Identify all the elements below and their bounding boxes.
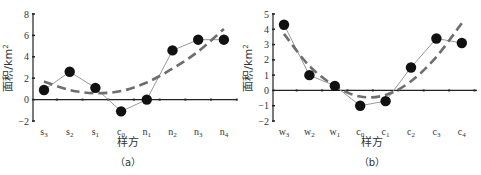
data-point-marker — [380, 96, 390, 106]
data-point-marker — [167, 45, 177, 55]
x-tick-label: s1 — [92, 126, 100, 139]
x-axis-zero-line — [33, 99, 238, 101]
chart-panel-b: −2−1012345面积/km2w3w2w1c0c1c2c3c4样方（b） — [242, 9, 477, 169]
x-tick-label: w3 — [279, 126, 290, 139]
y-axis-title: 面积/km2 — [242, 44, 255, 91]
y-tick-label: −1 — [258, 100, 269, 111]
data-point-marker — [406, 62, 416, 72]
y-axis: −2−1012345 — [258, 9, 275, 127]
y-tick-label: 2 — [264, 54, 269, 65]
x-tick-label: n2 — [168, 126, 177, 139]
y-tick-label: 3 — [264, 39, 269, 50]
chart-panel-a: −202468面积/km2s3s2s1c0n1n2n3n4样方（a） — [2, 9, 238, 169]
x-tick-label: c4 — [458, 126, 466, 139]
y-axis: −202468 — [18, 9, 35, 127]
x-axis-title: 样方 — [117, 135, 139, 149]
y-tick-label: 4 — [24, 51, 29, 62]
x-tick-label: n3 — [194, 126, 203, 139]
y-tick-label: 2 — [24, 73, 29, 84]
y-tick-label: −2 — [18, 116, 29, 127]
data-point-marker — [431, 33, 441, 43]
data-point-marker — [355, 101, 365, 111]
data-point-marker — [219, 34, 229, 44]
y-tick-label: 5 — [264, 9, 269, 20]
x-axis-zero-line — [273, 89, 477, 91]
x-tick-label: n1 — [143, 126, 152, 139]
x-tick-label: s2 — [66, 126, 74, 139]
data-point-marker — [304, 70, 314, 80]
data-point-marker — [330, 81, 340, 91]
panel-caption: （b） — [359, 157, 385, 168]
x-tick-label: w2 — [304, 126, 315, 139]
data-point-marker — [90, 83, 100, 93]
y-axis-title: 面积/km2 — [2, 44, 15, 91]
observed-markers — [39, 34, 229, 116]
data-point-marker — [457, 38, 467, 48]
data-point-marker — [65, 67, 75, 77]
y-tick-label: −2 — [258, 116, 269, 127]
data-point-marker — [116, 106, 126, 116]
x-axis-title: 样方 — [361, 135, 383, 149]
y-tick-label: 8 — [24, 9, 29, 20]
figure: −202468面积/km2s3s2s1c0n1n2n3n4样方（a） −2−10… — [0, 0, 481, 175]
y-tick-label: 0 — [24, 94, 29, 105]
data-point-marker — [142, 94, 152, 104]
y-tick-label: 1 — [264, 70, 269, 81]
y-tick-label: 6 — [24, 30, 29, 41]
x-tick-label: w1 — [329, 126, 340, 139]
x-tick-label: c3 — [432, 126, 440, 139]
x-tick-label: n4 — [220, 126, 229, 139]
data-point-marker — [193, 34, 203, 44]
panel-caption: （a） — [115, 157, 141, 168]
x-tick-label: c2 — [407, 126, 415, 139]
data-point-marker — [279, 20, 289, 30]
y-tick-label: 0 — [264, 85, 269, 96]
y-tick-label: 4 — [264, 24, 269, 35]
x-tick-label: s3 — [40, 126, 48, 139]
data-point-marker — [39, 85, 49, 95]
